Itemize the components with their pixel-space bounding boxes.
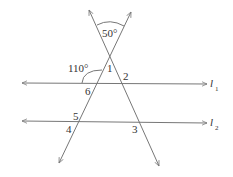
angle-arc-50 <box>97 22 124 26</box>
angle-number-2: 2 <box>123 70 129 82</box>
transversal-b <box>59 12 131 163</box>
line-label-l2-subscript: 2 <box>215 124 219 132</box>
line-label-l1: l <box>210 77 213 89</box>
parallel-lines-diagram: 50° 110° 1 2 3 4 5 6 l 1 l 2 <box>0 0 233 177</box>
line-l1 <box>22 83 207 84</box>
transversal-a <box>89 10 159 166</box>
line-l2 <box>22 121 207 123</box>
angle-number-4: 4 <box>66 123 72 135</box>
line-label-l1-subscript: 1 <box>215 85 219 93</box>
angle-label-50: 50° <box>102 27 117 39</box>
angle-label-110: 110° <box>68 62 89 74</box>
angle-number-5: 5 <box>73 110 79 122</box>
line-label-l2: l <box>210 116 213 128</box>
angle-number-3: 3 <box>132 123 138 135</box>
angle-number-6: 6 <box>85 85 91 97</box>
angle-number-1: 1 <box>107 62 113 74</box>
